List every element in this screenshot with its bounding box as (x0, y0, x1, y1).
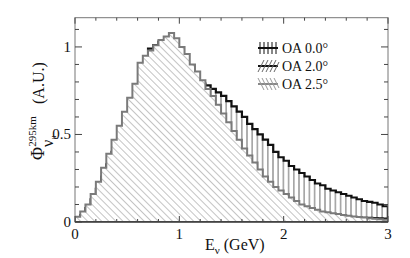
vertical-hatch-swatch-icon (258, 42, 278, 54)
diagonal-up-hatch-swatch-icon (258, 60, 279, 72)
x-tick-label: 0 (71, 226, 79, 242)
y-tick-label: 0 (64, 214, 72, 230)
x-tick-label: 2 (280, 226, 288, 242)
y-tick-label: 1 (64, 39, 72, 55)
x-axis-title: Eν (GeV) (205, 236, 265, 256)
plot-area (75, 33, 388, 222)
legend-label: OA 2.5° (282, 77, 328, 92)
x-tick-label: 3 (384, 226, 392, 242)
x-title-main: E (205, 236, 215, 253)
y-title-main: Φ (28, 147, 48, 160)
y-title-sup: 295km (26, 116, 38, 147)
legend-item-oa-0-0: OA 0.0° (258, 41, 328, 56)
svg-text:Φ295km: Φ295km (26, 116, 48, 160)
legend-label: OA 0.0° (282, 41, 328, 56)
legend-item-oa-2-0: OA 2.0° (258, 59, 328, 74)
legend-label: OA 2.0° (282, 59, 328, 74)
svg-text:νμ: νμ (39, 135, 58, 147)
legend-item-oa-2-5: OA 2.5° (258, 77, 328, 92)
legend: OA 0.0° OA 2.0° OA 2.5° (258, 41, 328, 92)
flux-histogram-chart: 012300.51 OA 0.0° OA 2.0° (0, 0, 410, 258)
diagonal-down-hatch-swatch-icon (258, 78, 279, 90)
y-title-unit: (A.U.) (30, 62, 48, 104)
y-title-sub: ν (39, 140, 56, 147)
x-tick-label: 1 (176, 226, 184, 242)
y-title-subsub: μ (49, 135, 58, 139)
y-axis-title: Φ295km νμ (A.U.) (26, 62, 58, 160)
x-title-unit: (GeV) (220, 236, 265, 254)
